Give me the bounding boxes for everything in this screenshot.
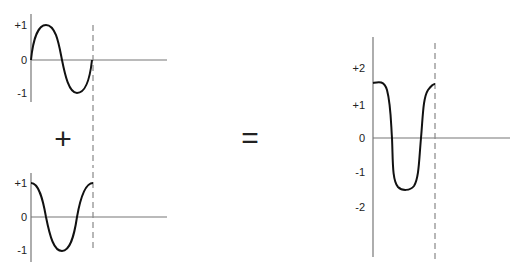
cosine-tick-p1: +1 (14, 177, 27, 189)
plus-sign: + (54, 122, 72, 155)
sum-tick-m1: -1 (355, 166, 365, 178)
sine-tick-0: 0 (21, 54, 27, 66)
equals-sign: = (241, 121, 259, 154)
wave-sum-diagram: +1 0 -1 + +1 0 -1 = +2 +1 0 -1 -2 (0, 0, 528, 274)
cosine-graph: +1 0 -1 (14, 172, 167, 262)
sum-tick-p1: +1 (352, 99, 365, 111)
sum-curve (373, 82, 435, 190)
sum-tick-0: 0 (359, 132, 365, 144)
sum-graph: +2 +1 0 -1 -2 (352, 37, 510, 259)
cosine-tick-0: 0 (21, 211, 27, 223)
sine-graph: +1 0 -1 (14, 14, 167, 168)
sine-tick-m1: -1 (17, 87, 27, 99)
cosine-tick-m1: -1 (17, 244, 27, 256)
sine-tick-p1: +1 (14, 19, 27, 31)
sum-tick-p2: +2 (352, 62, 365, 74)
sum-tick-m2: -2 (355, 201, 365, 213)
sine-curve (31, 25, 92, 93)
